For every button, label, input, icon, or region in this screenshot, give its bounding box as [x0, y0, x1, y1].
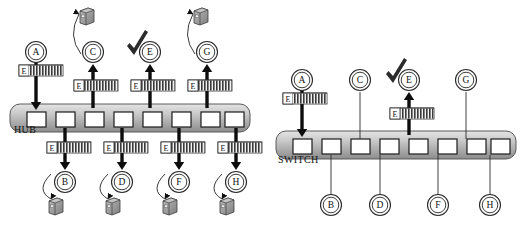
frame-label: E: [221, 144, 226, 153]
frame-label: E: [107, 144, 112, 153]
switch-label: SWITCH: [278, 154, 319, 165]
computer-icon-d: [106, 198, 120, 215]
port-3[interactable]: [351, 139, 370, 154]
node-label: G: [463, 75, 470, 85]
node-label: B: [328, 200, 334, 210]
frame-label: E: [22, 67, 27, 76]
port-8[interactable]: [491, 139, 510, 154]
ethernet-frame-icon: E: [161, 142, 205, 153]
frame-payload-hatch: [400, 109, 433, 119]
frame-payload-hatch: [141, 81, 174, 91]
frame-payload-hatch: [171, 143, 204, 153]
node-a: A: [26, 42, 47, 63]
hub-label: HUB: [14, 124, 36, 135]
frame-payload-hatch: [84, 81, 117, 91]
frame-payload-hatch: [57, 143, 90, 153]
port-2[interactable]: [322, 139, 341, 154]
node-b: B: [321, 195, 342, 216]
frame-payload-hatch: [228, 143, 261, 153]
node-d: D: [370, 195, 391, 216]
node-label: H: [487, 200, 494, 210]
port-1[interactable]: [293, 139, 312, 154]
node-label: A: [299, 75, 306, 85]
node-label: E: [147, 47, 153, 57]
computer-icon-c: [80, 8, 94, 25]
network-diagram-figure: HUBEEEEEEEEACEGBDFHSWITCHEEACEGBDFH: [0, 0, 528, 234]
ethernet-frame-icon: E: [390, 108, 434, 119]
ethernet-frame-icon: E: [283, 93, 327, 104]
node-c: C: [83, 42, 104, 63]
frame-payload-hatch: [29, 66, 62, 76]
node-label: C: [357, 75, 363, 85]
computer-icon-f: [163, 198, 177, 215]
frame-label: E: [286, 95, 291, 104]
node-c: C: [350, 70, 371, 91]
frame-label: E: [50, 144, 55, 153]
port-8[interactable]: [225, 112, 244, 127]
node-label: B: [62, 177, 68, 187]
node-f: F: [428, 195, 449, 216]
node-label: H: [233, 177, 240, 187]
node-label: D: [119, 177, 126, 187]
computer-slot: [222, 205, 225, 207]
node-g: G: [197, 42, 218, 63]
frame-payload-hatch: [198, 81, 231, 91]
ethernet-frame-icon: E: [131, 80, 175, 91]
node-h: H: [480, 195, 501, 216]
node-label: G: [204, 47, 211, 57]
ethernet-frame-icon: E: [104, 142, 148, 153]
computer-slot: [82, 15, 85, 17]
ethernet-frame-icon: E: [188, 80, 232, 91]
port-5[interactable]: [409, 139, 428, 154]
node-label: C: [90, 47, 96, 57]
diagram-canvas: HUBEEEEEEEEACEGBDFHSWITCHEEACEGBDFH: [0, 0, 528, 234]
computer-slot: [196, 15, 199, 17]
computer-icon-g: [194, 8, 208, 25]
node-a: A: [292, 70, 313, 91]
ethernet-frame-icon: E: [74, 80, 118, 91]
computer-icon-b: [49, 198, 63, 215]
port-6[interactable]: [438, 139, 457, 154]
node-e: E: [140, 42, 161, 63]
frame-label: E: [164, 144, 169, 153]
port-4[interactable]: [114, 112, 133, 127]
frame-label: E: [134, 82, 139, 91]
port-7[interactable]: [467, 139, 486, 154]
port-2[interactable]: [56, 112, 75, 127]
ethernet-frame-icon: E: [47, 142, 91, 153]
node-label: F: [176, 177, 181, 187]
port-5[interactable]: [143, 112, 162, 127]
port-4[interactable]: [380, 139, 399, 154]
computer-icon-h: [220, 198, 234, 215]
node-f: F: [169, 172, 190, 193]
node-label: D: [377, 200, 384, 210]
ethernet-frame-icon: E: [218, 142, 262, 153]
port-3[interactable]: [85, 112, 104, 127]
node-b: B: [55, 172, 76, 193]
port-7[interactable]: [201, 112, 220, 127]
frame-payload-hatch: [293, 94, 326, 104]
node-label: F: [435, 200, 440, 210]
ethernet-frame-icon: E: [19, 65, 63, 76]
frame-label: E: [77, 82, 82, 91]
frame-label: E: [191, 82, 196, 91]
computer-slot: [165, 205, 168, 207]
computer-slot: [108, 205, 111, 207]
node-h: H: [226, 172, 247, 193]
node-label: A: [33, 47, 40, 57]
node-label: E: [406, 75, 412, 85]
node-e: E: [399, 70, 420, 91]
node-d: D: [112, 172, 133, 193]
frame-label: E: [393, 110, 398, 119]
node-g: G: [456, 70, 477, 91]
frame-payload-hatch: [114, 143, 147, 153]
computer-slot: [51, 205, 54, 207]
port-6[interactable]: [172, 112, 191, 127]
